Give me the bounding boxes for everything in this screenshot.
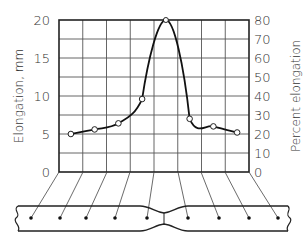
- gage-marks: [29, 216, 280, 220]
- projection-lines: [31, 172, 278, 218]
- y-axis-left-label: Elongation, mm: [12, 49, 26, 143]
- y-tick-left: 20: [33, 13, 50, 28]
- data-point: [139, 96, 145, 102]
- y-tick-right: 10: [254, 146, 271, 161]
- gage-mark: [186, 216, 190, 220]
- y-tick-right: 40: [254, 89, 271, 104]
- y-tick-right: 70: [254, 32, 271, 47]
- y-tick-left: 10: [33, 89, 50, 104]
- y-tick-right: 0: [254, 165, 262, 180]
- y-tick-right: 60: [254, 51, 271, 66]
- y-axis-right-label: Percent elongation: [289, 40, 303, 152]
- data-point: [187, 116, 193, 122]
- gage-mark: [247, 216, 251, 220]
- gage-mark: [113, 216, 117, 220]
- gage-mark: [29, 216, 33, 220]
- y-tick-left: 15: [33, 51, 50, 66]
- y-tick-left: 0: [42, 165, 50, 180]
- y-tick-right: 50: [254, 70, 271, 85]
- gage-mark: [217, 216, 221, 220]
- data-point: [116, 121, 122, 127]
- y-tick-right: 20: [254, 127, 271, 142]
- data-point: [211, 124, 217, 130]
- y-tick-left: 5: [42, 127, 50, 142]
- gage-mark: [276, 216, 280, 220]
- data-point: [163, 18, 168, 23]
- gage-mark: [145, 216, 149, 220]
- elongation-diagram: 05101520 01020304050607080 Elongation, m…: [0, 0, 307, 240]
- break-line-left: [15, 206, 19, 231]
- y-axis-right-ticks: 01020304050607080: [254, 13, 271, 180]
- data-point: [234, 130, 240, 136]
- break-line-right: [287, 206, 291, 231]
- data-point: [92, 127, 98, 133]
- y-tick-right: 80: [254, 13, 271, 28]
- data-point: [68, 131, 74, 137]
- gage-mark: [58, 216, 62, 220]
- y-tick-right: 30: [254, 108, 271, 123]
- y-axis-left-ticks: 05101520: [33, 13, 50, 180]
- tensile-specimen: [15, 206, 291, 231]
- gage-mark: [84, 216, 88, 220]
